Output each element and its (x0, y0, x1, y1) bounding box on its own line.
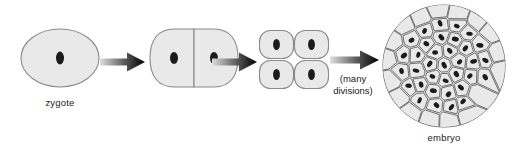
arrow-2-shape (212, 53, 257, 72)
arrow-2-icon (212, 52, 258, 72)
embryo-cell-nucleus (382, 2, 389, 8)
arrow-3 (330, 50, 380, 70)
four-cell-bottom-right-nucleus (308, 69, 315, 80)
embryo-cell-nucleus (390, 136, 396, 141)
embryo-cell-nucleus (371, 28, 379, 35)
embryo-cell-nucleus (509, 14, 515, 22)
many-divisions-line-1: (many (318, 73, 388, 85)
arrow-1-icon (100, 52, 146, 72)
embryo-cell-nucleus (493, 101, 499, 109)
two-cell-left-nucleus (170, 52, 178, 64)
four-cell-top-right-nucleus (308, 39, 315, 50)
embryo-cell (344, 6, 403, 50)
embryo-label: embryo (404, 132, 484, 143)
arrow-2 (212, 52, 258, 72)
arrow-1 (100, 52, 146, 72)
embryo-cell-nucleus (377, 106, 385, 114)
cell-division-diagram: zygote (0, 0, 515, 151)
embryo-figure (381, 2, 507, 130)
arrow-3-icon (330, 50, 380, 70)
zygote-nucleus (56, 52, 64, 65)
zygote-label: zygote (20, 97, 100, 108)
stage-zygote (18, 27, 102, 89)
embryo-cell (458, 106, 515, 151)
arrow-1-shape (100, 53, 145, 72)
many-divisions-label: (many divisions) (318, 73, 388, 96)
four-cell-top-left-nucleus (273, 39, 280, 50)
zygote-cell-figure (18, 27, 102, 89)
embryo-cell-nucleus (409, 0, 417, 1)
many-divisions-line-2: divisions) (318, 85, 388, 97)
stage-embryo (381, 2, 507, 130)
arrow-3-shape (330, 51, 379, 70)
embryo-cell-nucleus (483, 131, 491, 139)
four-cell-bottom-left-nucleus (273, 69, 280, 80)
embryo-cell (364, 102, 422, 151)
embryo-cell (357, 0, 415, 35)
